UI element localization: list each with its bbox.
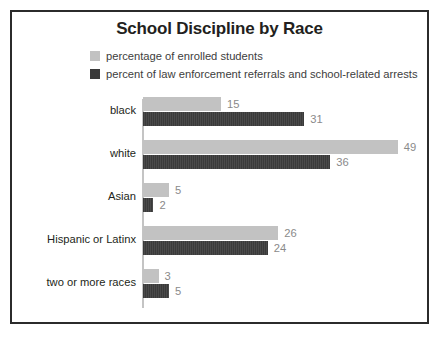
bar-value-referrals: 36 <box>336 155 348 169</box>
plot-area: black 15 31 white 49 36 Asian <box>12 96 427 322</box>
legend-item-enrolled-students: percentage of enrolled students <box>90 48 418 64</box>
bar-group: two or more races 3 5 <box>12 268 427 299</box>
bar-group: white 49 36 <box>12 139 427 170</box>
bar-value-enrolled: 15 <box>227 97 239 111</box>
bar-row-enrolled: 5 <box>143 183 181 197</box>
bar-value-enrolled: 5 <box>175 183 181 197</box>
bar-value-referrals: 2 <box>159 198 165 212</box>
chart-title: School Discipline by Race <box>12 19 427 39</box>
bar-enrolled <box>143 183 169 197</box>
bar-value-referrals: 5 <box>175 284 181 298</box>
bar-value-referrals: 31 <box>310 112 322 126</box>
bar-row-referrals: 36 <box>143 155 349 169</box>
category-label: white <box>12 147 136 159</box>
legend-label-enrolled-students: percentage of enrolled students <box>106 50 263 62</box>
bar-enrolled <box>143 97 221 111</box>
bar-row-enrolled: 49 <box>143 140 416 154</box>
bar-referrals <box>143 112 304 126</box>
bar-group: Asian 5 2 <box>12 182 427 213</box>
legend-swatch-light-icon <box>90 51 100 61</box>
legend-item-law-enforcement: percent of law enforcement referrals and… <box>90 66 418 82</box>
category-label: black <box>12 104 136 116</box>
category-label: two or more races <box>12 276 136 288</box>
bar-row-referrals: 24 <box>143 241 286 255</box>
bar-row-referrals: 2 <box>143 198 166 212</box>
bar-row-referrals: 5 <box>143 284 181 298</box>
chart-legend: percentage of enrolled students percent … <box>90 48 418 84</box>
bar-referrals <box>143 284 169 298</box>
legend-label-law-enforcement: percent of law enforcement referrals and… <box>106 68 418 80</box>
bar-referrals <box>143 241 268 255</box>
category-label: Asian <box>12 190 136 202</box>
bar-value-enrolled: 26 <box>284 226 296 240</box>
bar-row-enrolled: 3 <box>143 269 171 283</box>
bar-enrolled <box>143 226 278 240</box>
bar-referrals <box>143 155 330 169</box>
bar-row-enrolled: 15 <box>143 97 239 111</box>
bar-row-enrolled: 26 <box>143 226 297 240</box>
bar-row-referrals: 31 <box>143 112 323 126</box>
bar-group: Hispanic or Latinx 26 24 <box>12 225 427 256</box>
chart-figure: School Discipline by Race percentage of … <box>10 10 429 324</box>
bar-value-referrals: 24 <box>274 241 286 255</box>
category-label: Hispanic or Latinx <box>12 233 136 245</box>
bar-group: black 15 31 <box>12 96 427 127</box>
bar-value-enrolled: 49 <box>404 140 416 154</box>
bar-value-enrolled: 3 <box>165 269 171 283</box>
bar-referrals <box>143 198 153 212</box>
bar-enrolled <box>143 140 398 154</box>
legend-swatch-dark-icon <box>90 69 100 79</box>
bar-enrolled <box>143 269 159 283</box>
